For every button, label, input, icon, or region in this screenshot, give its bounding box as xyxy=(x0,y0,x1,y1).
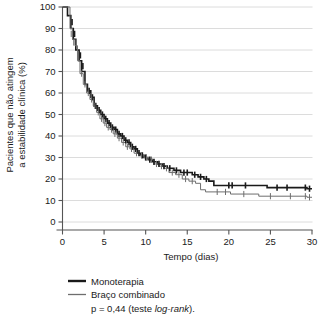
x-axis-ticks: 051015202530 xyxy=(60,230,317,247)
y-axis-title-line1: Pacientes que não atingem xyxy=(4,57,15,172)
x-tick-label: 25 xyxy=(265,236,276,247)
y-tick-label: 90 xyxy=(45,23,56,34)
series-line-1 xyxy=(63,7,313,197)
y-tick-label: 50 xyxy=(45,109,56,120)
y-tick-label: 40 xyxy=(45,130,56,141)
x-tick-label: 30 xyxy=(307,236,318,247)
x-axis-title: Tempo (dias) xyxy=(164,251,219,262)
y-tick-label: 70 xyxy=(45,66,56,77)
legend-label-0: Monoterapia xyxy=(91,276,145,287)
series-line-0 xyxy=(63,7,313,189)
y-tick-label: 80 xyxy=(45,44,56,55)
y-axis-title-line2: a estabilidade clínica (%) xyxy=(16,62,27,168)
legend: MonoterapiaBraço combinadop = 0,44 (test… xyxy=(68,276,195,314)
pvalue-annotation: p = 0,44 (teste log-rank). xyxy=(91,303,195,314)
y-tick-label: 20 xyxy=(45,173,56,184)
survival-chart: 0102030405060708090100 051015202530 Paci… xyxy=(0,0,325,320)
x-tick-label: 15 xyxy=(182,236,193,247)
series-curves xyxy=(63,7,313,197)
y-tick-label: 10 xyxy=(45,195,56,206)
legend-label-1: Braço combinado xyxy=(91,289,165,300)
y-tick-label: 60 xyxy=(45,87,56,98)
x-tick-label: 20 xyxy=(224,236,235,247)
y-tick-label: 30 xyxy=(45,152,56,163)
y-tick-label: 0 xyxy=(50,216,55,227)
kaplan-meier-figure: 0102030405060708090100 051015202530 Paci… xyxy=(0,0,325,320)
x-tick-label: 5 xyxy=(101,236,106,247)
y-axis-ticks: 0102030405060708090100 xyxy=(40,1,63,227)
x-tick-label: 10 xyxy=(140,236,151,247)
y-tick-label: 100 xyxy=(40,1,56,12)
x-tick-label: 0 xyxy=(60,236,65,247)
